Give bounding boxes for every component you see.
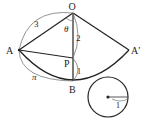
label-length-2: 2 xyxy=(76,33,81,43)
label-P: P xyxy=(64,58,70,69)
label-O: O xyxy=(69,1,76,12)
label-B: B xyxy=(69,84,76,95)
label-A-prime: A′ xyxy=(131,45,140,56)
segment-AP xyxy=(19,50,73,58)
label-radius-1: 1 xyxy=(116,101,120,110)
diagram-svg: O A A′ P B 3 2 1 π θ 1 xyxy=(0,0,148,128)
label-arc-pi: π xyxy=(32,72,37,82)
label-length-3: 3 xyxy=(34,19,39,29)
label-theta: θ xyxy=(64,24,69,34)
point-A-dot xyxy=(18,49,20,51)
angle-mark-theta xyxy=(66,18,73,21)
annotation-radius xyxy=(112,99,128,101)
cone-development-diagram: O A A′ P B 3 2 1 π θ 1 xyxy=(0,0,148,128)
label-length-1: 1 xyxy=(77,67,81,76)
label-A: A xyxy=(6,45,14,56)
segment-OA-prime xyxy=(73,13,129,50)
